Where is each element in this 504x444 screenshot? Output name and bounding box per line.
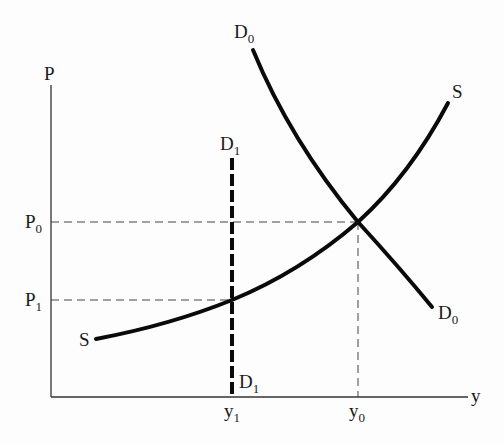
d0-label-top: D0: [234, 21, 254, 46]
supply-label-end: S: [452, 81, 463, 102]
p1-label: P1: [25, 289, 42, 314]
p0-label: P0: [25, 211, 42, 236]
d0-label-bottom: D0: [438, 302, 458, 327]
supply-demand-diagram: P y P0 P1 y1 y0 S S D0 D0 D1 D1: [0, 0, 504, 444]
d1-label-top: D1: [220, 133, 240, 158]
y1-label: y1: [224, 400, 240, 425]
supply-label-start: S: [79, 329, 90, 350]
y0-label: y0: [349, 400, 365, 425]
supply-curve: [96, 103, 448, 339]
demand-curve-d0: [253, 50, 432, 307]
price-axis-label: P: [44, 63, 55, 84]
quantity-axis-label: y: [471, 385, 481, 406]
diagram-canvas: P y P0 P1 y1 y0 S S D0 D0 D1 D1: [0, 0, 504, 444]
d1-label-bottom: D1: [239, 371, 259, 396]
